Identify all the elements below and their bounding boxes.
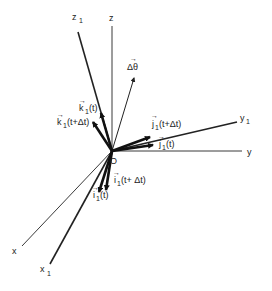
- svg-text:k: k: [79, 103, 84, 113]
- svg-text:(t): (t): [89, 103, 98, 113]
- x1-axis: [50, 151, 112, 264]
- x1-axis-label: x 1: [40, 264, 51, 277]
- i1-t-dt-label: → i 1 (t+ Δt): [113, 169, 146, 187]
- x-axis-label: x: [12, 246, 17, 256]
- svg-text:(t): (t): [100, 190, 109, 200]
- y-axis-label: y: [247, 147, 252, 157]
- k1-t-vector: [101, 113, 112, 151]
- svg-text:y: y: [240, 113, 245, 123]
- svg-text:1: 1: [79, 17, 83, 24]
- delta-theta-label: → Δθ: [127, 55, 138, 72]
- y1-axis-label: y 1: [240, 113, 250, 125]
- svg-text:z: z: [72, 12, 77, 22]
- svg-text:k: k: [57, 117, 62, 127]
- svg-text:i: i: [93, 190, 95, 200]
- delta-theta-vector: [112, 78, 134, 151]
- svg-text:(t+Δt): (t+Δt): [67, 117, 89, 127]
- svg-text:1: 1: [47, 270, 51, 277]
- svg-text:Δθ: Δθ: [127, 62, 138, 72]
- origin-label: O: [110, 156, 117, 166]
- svg-text:j: j: [151, 119, 154, 129]
- z-axis-label: z: [109, 13, 114, 23]
- j1-t-dt-label: → j 1 (t+Δt): [151, 112, 181, 131]
- svg-text:x: x: [40, 264, 45, 274]
- svg-text:(t): (t): [166, 139, 175, 149]
- svg-text:→: →: [151, 112, 158, 119]
- svg-text:j: j: [158, 139, 161, 149]
- svg-text:(t+Δt): (t+Δt): [159, 119, 181, 129]
- k1-t-label: → k 1 (t): [79, 97, 98, 115]
- z1-axis-label: z 1: [72, 12, 83, 24]
- svg-text:(t+ Δt): (t+ Δt): [121, 175, 146, 185]
- svg-text:→: →: [130, 55, 137, 62]
- frame-diagram: O z z 1 y y 1 x x 1 → Δθ → k 1 (t) → k 1…: [0, 0, 272, 291]
- svg-text:1: 1: [246, 118, 250, 125]
- j1-t-label: → j 1 (t): [158, 133, 175, 151]
- svg-text:i: i: [114, 175, 116, 185]
